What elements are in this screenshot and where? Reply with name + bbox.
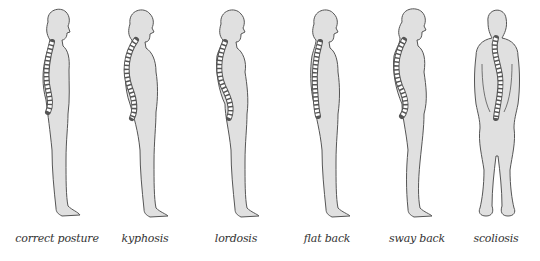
figure-kyphosis [100,0,190,225]
label-lordosis: lordosis [186,232,286,245]
label-kyphosis: kyphosis [95,232,195,245]
figure-flat-back [282,0,372,225]
figure-lordosis [191,0,281,225]
figure-correct-posture [12,0,102,225]
posture-illustration: correct posture kyphosis lordosis flat b… [0,0,540,261]
label-correct-posture: correct posture [7,232,107,245]
figure-sway-back [372,0,462,225]
label-scoliosis: scoliosis [446,232,540,245]
label-flat-back: flat back [277,232,377,245]
figure-scoliosis [452,0,540,225]
